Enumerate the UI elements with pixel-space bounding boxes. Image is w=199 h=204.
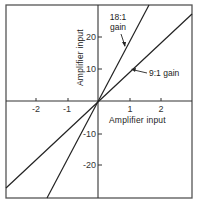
y-tick-label: 10 xyxy=(86,64,96,74)
y-tick-label: 20 xyxy=(86,32,96,42)
x-tick-label: -2 xyxy=(32,104,40,114)
x-axis-label: Amplifier input xyxy=(109,115,166,125)
arrow-icon xyxy=(134,70,147,73)
x-tick-label: -1 xyxy=(63,104,71,114)
x-tick-label: 1 xyxy=(127,104,132,114)
y-tick-label: -10 xyxy=(83,129,96,139)
x-tick-label: 2 xyxy=(158,104,163,114)
annotation-18-to-1-ratio: 18:1 xyxy=(110,12,127,22)
annotation-9-to-1-gain: 9:1 gain xyxy=(149,68,180,78)
arrowhead-icon xyxy=(122,42,126,47)
gain-chart: -2 -1 1 2 20 10 -10 -20 Amplifier input … xyxy=(0,0,199,204)
y-axis-label: Amplifier input xyxy=(75,29,85,86)
annotation-18-to-1-gain: gain xyxy=(110,22,126,32)
y-tick-label: -20 xyxy=(83,160,96,170)
